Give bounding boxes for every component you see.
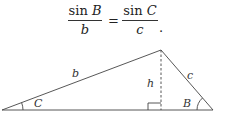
right-angle-marker bbox=[148, 103, 161, 110]
side-b bbox=[2, 50, 161, 110]
label-angle-B: B bbox=[182, 97, 191, 110]
label-angle-C: C bbox=[34, 97, 43, 110]
label-b: b bbox=[72, 67, 79, 80]
label-c: c bbox=[187, 69, 193, 82]
triangle-diagram: b h c C B bbox=[0, 0, 233, 120]
label-h: h bbox=[147, 77, 154, 90]
angle-arc-C bbox=[22, 103, 23, 110]
angle-arc-B bbox=[197, 98, 203, 110]
